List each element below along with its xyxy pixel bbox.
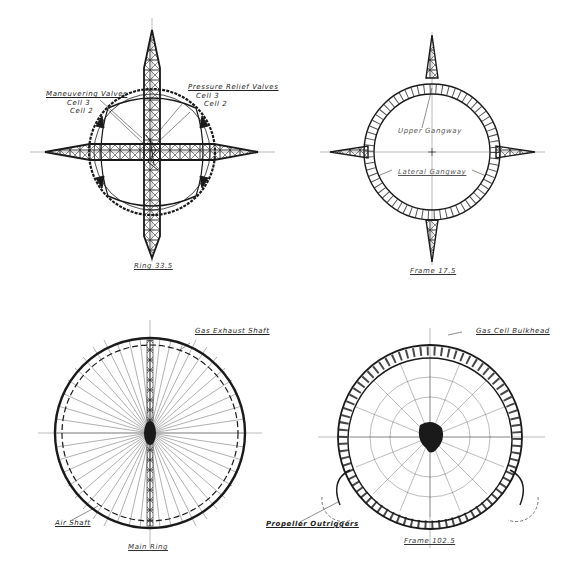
frame-102-5-caption: Frame 102.5 xyxy=(404,537,455,545)
propeller-outriggers-label: Propeller Outriggers xyxy=(266,520,359,528)
ring-33-5-caption: Ring 33.5 xyxy=(134,262,173,270)
main-ring-diagram xyxy=(38,320,262,548)
lateral-gangway-label: Lateral Gangway xyxy=(398,168,466,176)
frame-102-5-diagram xyxy=(300,328,545,548)
pressure-cell2-label: Cell 2 xyxy=(204,100,227,108)
air-shaft-label: Air Shaft xyxy=(55,519,91,527)
pressure-cell3-label: Cell 3 xyxy=(196,92,219,100)
gas-exhaust-shaft-label: Gas Exhaust Shaft xyxy=(195,327,270,335)
upper-gangway-label: Upper Gangway xyxy=(398,127,462,135)
frame-17-5-diagram xyxy=(320,32,545,265)
maneuvering-cell2-label: Cell 2 xyxy=(70,107,93,115)
main-ring-caption: Main Ring xyxy=(128,543,168,551)
frame-17-5-caption: Frame 17.5 xyxy=(410,267,456,275)
pressure-relief-valves-label: Pressure Relief Valves xyxy=(188,83,278,91)
gas-cell-bulkhead-label: Gas Cell Bulkhead xyxy=(476,327,550,335)
ring-33-5-diagram xyxy=(30,18,275,262)
maneuvering-valves-label: Maneuvering Valves xyxy=(46,90,127,98)
maneuvering-cell3-label: Cell 3 xyxy=(67,99,90,107)
drawing-plate xyxy=(0,0,578,581)
